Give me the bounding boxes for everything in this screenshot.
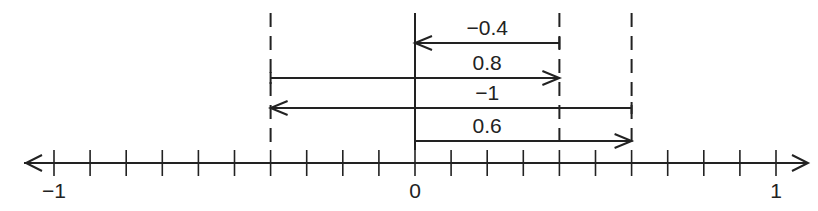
number-line-diagram: −101−0.40.8−10.6 xyxy=(0,0,818,211)
vector-label: −1 xyxy=(475,81,499,104)
vector-label: 0.6 xyxy=(473,114,502,137)
axis-label: 1 xyxy=(770,179,782,202)
vector-label: −0.4 xyxy=(466,16,508,39)
vector-label: 0.8 xyxy=(473,51,502,74)
axis-label: −1 xyxy=(42,179,66,202)
axis-label: 0 xyxy=(409,179,421,202)
